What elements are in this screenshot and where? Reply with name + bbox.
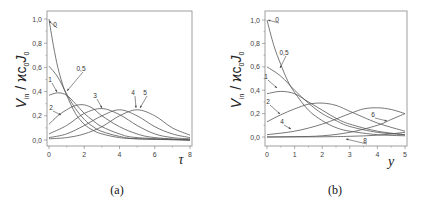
annotation-arrow [67, 72, 83, 91]
curve-label: 8 [363, 137, 367, 144]
y-tick-label: 0,4 [250, 87, 260, 94]
panel-a-chart: 0,00,20,40,60,81,00246800,512345Vin / ϰc… [13, 11, 192, 197]
x-axis-title: y [386, 154, 395, 169]
x-tick-label: 3 [348, 151, 352, 158]
curve-label: 0 [53, 21, 57, 28]
y-tick-label: 0,6 [250, 63, 260, 70]
curve-label: 0 [275, 16, 279, 23]
y-tick-label: 0,0 [250, 134, 260, 141]
x-tick-label: 8 [188, 151, 192, 158]
y-tick-label: 0,2 [32, 112, 42, 119]
x-tick-label: 6 [153, 151, 157, 158]
x-axis-title: τ [178, 152, 184, 167]
curve-label: 4 [131, 89, 135, 96]
series-curve-0-5 [267, 67, 405, 135]
x-tick-label: 2 [320, 151, 324, 158]
x-tick-label: 1 [293, 151, 297, 158]
curve-label: 0,5 [279, 49, 288, 56]
series-curve-4 [49, 110, 190, 138]
y-tick-label: 0,0 [32, 137, 42, 144]
x-tick-label: 2 [82, 151, 86, 158]
curve-label: 6 [371, 111, 375, 118]
y-axis-title: Vin / ϰc0J0 [13, 52, 30, 109]
curve-label: 2 [266, 98, 270, 105]
curve-label: 5 [143, 89, 147, 96]
y-axis-title: Vin / ϰc0J0 [228, 52, 245, 109]
curve-label: 1 [264, 73, 268, 80]
y-tick-label: 0,8 [32, 40, 42, 47]
x-tick-label: 5 [403, 151, 407, 158]
panel-caption: (b) [328, 183, 342, 197]
y-tick-label: 0,2 [250, 110, 260, 117]
x-tick-label: 4 [118, 151, 122, 158]
y-tick-label: 1,0 [250, 17, 260, 24]
y-tick-label: 1,0 [32, 16, 42, 23]
y-tick-label: 0,8 [250, 40, 260, 47]
series-curve-0 [49, 19, 190, 140]
series-curve-1 [267, 91, 405, 134]
panel-caption: (a) [110, 183, 123, 197]
figure: 0,00,20,40,60,81,00246800,512345Vin / ϰc… [0, 0, 423, 205]
y-tick-label: 0,4 [32, 88, 42, 95]
series-curve-5 [49, 110, 190, 139]
curve-label: 3 [93, 92, 97, 99]
curve-label: 2 [49, 104, 53, 111]
x-tick-label: 0 [265, 151, 269, 158]
curve-label: 4 [280, 118, 284, 125]
plot-frame [47, 11, 192, 146]
panel-b-chart: 0,00,20,40,60,81,001234500,512468Vin / ϰ… [228, 11, 407, 197]
x-tick-label: 4 [375, 151, 379, 158]
curve-label: 0,5 [76, 65, 85, 72]
curve-label: 1 [48, 76, 52, 83]
x-tick-label: 0 [47, 151, 51, 158]
y-tick-label: 0,6 [32, 64, 42, 71]
